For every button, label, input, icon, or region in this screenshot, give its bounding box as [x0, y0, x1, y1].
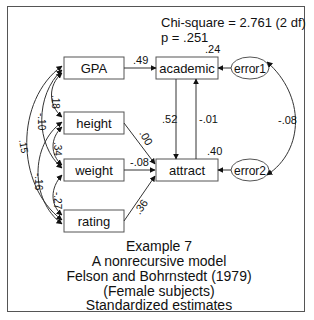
coef-height-weight: .34 — [52, 142, 63, 156]
node-gpa-label: GPA — [81, 61, 108, 76]
coef-gpa-academic: .49 — [133, 54, 148, 66]
coef-attract-academic: -.01 — [199, 113, 218, 125]
node-error2: error2 — [231, 159, 269, 181]
node-error1-label: error1 — [234, 62, 266, 76]
caption-line-3: Felson and Bohrnstedt (1979) — [66, 268, 251, 284]
node-error1: error1 — [231, 57, 269, 79]
node-attract-label: attract — [169, 163, 206, 178]
caption-line-1: Example 7 — [126, 238, 192, 254]
coef-rating-attract: .36 — [132, 197, 151, 216]
node-weight: weight — [64, 159, 124, 181]
coef-height-rating: -.16 — [33, 173, 44, 191]
node-height-label: height — [76, 116, 112, 131]
coef-gpa-height: .18 — [50, 95, 61, 109]
node-rating: rating — [64, 210, 124, 232]
coef-gpa-weight: -.10 — [36, 113, 47, 131]
path-diagram: Chi-square = 2.761 (2 df) p = .251 GPA h… — [0, 0, 314, 320]
node-attract: attract — [156, 159, 218, 181]
node-weight-label: weight — [74, 163, 113, 178]
caption-line-5: Standardized estimates — [86, 297, 232, 313]
node-height: height — [64, 112, 124, 134]
chi-square-label: Chi-square = 2.761 (2 df) — [161, 15, 306, 30]
node-academic: academic — [156, 57, 218, 79]
node-gpa: GPA — [64, 57, 124, 79]
coef-weight-attract: -.08 — [130, 156, 149, 168]
coef-gpa-rating: .15 — [17, 138, 30, 154]
node-error2-label: error2 — [234, 164, 266, 178]
coef-weight-rating: -.27 — [52, 192, 63, 210]
coef-error1-error2: -.08 — [278, 114, 297, 126]
p-value-label: p = .251 — [161, 30, 208, 45]
r-squared-attract: .40 — [207, 145, 222, 157]
caption-line-2: A nonrecursive model — [92, 253, 227, 269]
coef-academic-attract: .52 — [162, 113, 177, 125]
node-academic-label: academic — [159, 61, 215, 76]
caption: Example 7 A nonrecursive model Felson an… — [66, 238, 251, 313]
r-squared-academic: .24 — [205, 43, 220, 55]
node-rating-label: rating — [78, 214, 111, 229]
